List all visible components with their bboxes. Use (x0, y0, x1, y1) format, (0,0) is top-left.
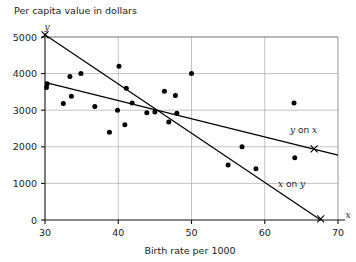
data-point (67, 74, 72, 79)
data-point (189, 71, 194, 76)
data-point (173, 93, 178, 98)
xtick-label-40: 40 (112, 227, 124, 238)
y-tick-marks (41, 37, 45, 220)
ytick-label-4000: 4000 (13, 68, 37, 79)
ytick-label-0: 0 (31, 215, 37, 226)
data-point (130, 100, 135, 105)
data-point (152, 110, 157, 115)
ytick-label-1000: 1000 (13, 178, 37, 189)
x-tick-marks (45, 220, 338, 224)
data-point (226, 163, 231, 168)
ytick-label-3000: 3000 (13, 105, 37, 116)
xtick-label-50: 50 (185, 227, 197, 238)
data-point (115, 108, 120, 113)
ytick-label-5000: 5000 (13, 32, 37, 43)
data-point (45, 81, 50, 86)
data-point (61, 101, 66, 106)
x-axis-title: Birth rate per 1000 (144, 245, 235, 256)
data-point (166, 119, 171, 124)
data-point (162, 89, 167, 94)
data-point (107, 130, 112, 135)
data-point (144, 110, 149, 115)
data-point (174, 111, 179, 116)
chart-container: 5000 4000 3000 2000 1000 0 30 40 50 60 7… (0, 0, 356, 262)
data-point (292, 155, 297, 160)
xtick-label-30: 30 (39, 227, 51, 238)
xtick-label-70: 70 (332, 227, 344, 238)
scatter-plot-figure: 5000 4000 3000 2000 1000 0 30 40 50 60 7… (0, 0, 356, 262)
data-point (78, 71, 83, 76)
data-point (122, 122, 127, 127)
data-point (124, 86, 129, 91)
x-axis-letter: x (345, 210, 350, 220)
data-point (253, 166, 258, 171)
label-x-on-y: x on y (278, 179, 306, 189)
label-y-on-x: y on x (289, 125, 317, 135)
data-point (116, 64, 121, 69)
data-point (240, 144, 245, 149)
ytick-label-2000: 2000 (13, 141, 37, 152)
xtick-label-60: 60 (259, 227, 271, 238)
chart-title: Per capita value in dollars (14, 5, 137, 16)
data-point (92, 104, 97, 109)
data-point (292, 100, 297, 105)
data-point (69, 94, 74, 99)
y-axis-letter: y (43, 22, 50, 32)
